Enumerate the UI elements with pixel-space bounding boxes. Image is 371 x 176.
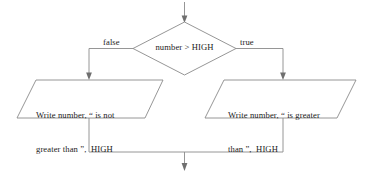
false-branch-line xyxy=(89,49,133,76)
true-branch-connector xyxy=(236,49,286,81)
process-right-line-1: Write number, “ is greater xyxy=(228,110,352,121)
branch-label-true: true xyxy=(240,37,254,47)
decision-label: number > HIGH xyxy=(133,42,236,53)
arrow-down-icon xyxy=(182,163,188,171)
process-left-line-2: greater than ”, HIGH xyxy=(36,144,148,155)
false-branch-connector xyxy=(86,49,133,81)
process-right-line-2: than ”, HIGH xyxy=(228,144,352,155)
process-left-line-1: Write number, “ is not xyxy=(36,110,148,121)
branch-label-false: false xyxy=(103,37,120,47)
process-left-label: Write number, “ is not greater than ”, H… xyxy=(36,87,148,176)
arrow-down-icon xyxy=(280,73,286,81)
true-branch-line xyxy=(236,49,283,76)
flowchart-diagram: number > HIGH false true Write number, “… xyxy=(0,0,371,176)
entry-connector xyxy=(182,2,188,23)
arrow-down-icon xyxy=(86,73,92,81)
process-right-label: Write number, “ is greater than ”, HIGH xyxy=(228,87,352,176)
